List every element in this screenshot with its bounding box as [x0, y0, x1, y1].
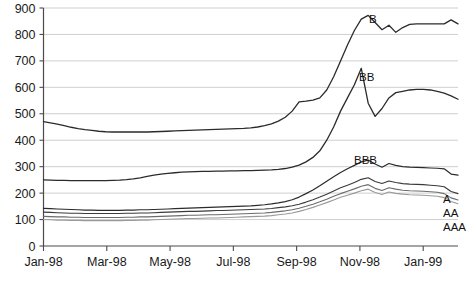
y-tick-label-800: 800	[15, 28, 36, 42]
y-tick-label-600: 600	[15, 81, 36, 95]
series-line-A	[44, 178, 459, 214]
x-tick-label-Jan-99: Jan-99	[404, 255, 442, 269]
series-line-AAA	[44, 189, 459, 220]
x-tick-label-Jan-98: Jan-98	[24, 255, 62, 269]
y-tick-label-300: 300	[15, 160, 36, 174]
x-axis	[44, 246, 459, 251]
gridlines	[44, 8, 459, 220]
x-axis-tick-labels: Jan-98Mar-98May-98Jul-98Sep-98Nov-98Jan-…	[24, 255, 442, 269]
series-labels: BBBBBBAAAAAA	[354, 13, 466, 233]
y-tick-label-100: 100	[15, 213, 36, 227]
credit-spread-line-chart: 0100200300400500600700800900 Jan-98Mar-9…	[0, 0, 467, 282]
y-tick-label-700: 700	[15, 54, 36, 68]
series-label-AAA: AAA	[443, 221, 466, 233]
chart-svg: 0100200300400500600700800900 Jan-98Mar-9…	[0, 0, 467, 282]
x-tick-label-May-98: May-98	[149, 255, 191, 269]
series-line-BB	[44, 68, 459, 180]
series-label-BBB: BBB	[354, 154, 377, 166]
series-label-A: A	[443, 193, 451, 205]
y-tick-label-200: 200	[15, 187, 36, 201]
series-line-AA	[44, 185, 459, 218]
data-series	[44, 15, 459, 220]
series-label-BB: BB	[359, 71, 375, 83]
y-tick-label-0: 0	[29, 240, 36, 254]
x-tick-label-Jul-98: Jul-98	[216, 255, 250, 269]
series-line-BBB	[44, 160, 459, 210]
x-tick-label-Sep-98: Sep-98	[276, 255, 316, 269]
series-line-B	[44, 15, 459, 132]
y-axis	[40, 8, 44, 246]
y-tick-label-900: 900	[15, 2, 36, 16]
y-axis-tick-labels: 0100200300400500600700800900	[15, 2, 36, 254]
y-tick-label-400: 400	[15, 134, 36, 148]
x-tick-label-Nov-98: Nov-98	[340, 255, 380, 269]
series-label-AA: AA	[443, 207, 459, 219]
series-label-B: B	[369, 13, 377, 25]
y-tick-label-500: 500	[15, 107, 36, 121]
x-tick-label-Mar-98: Mar-98	[87, 255, 127, 269]
